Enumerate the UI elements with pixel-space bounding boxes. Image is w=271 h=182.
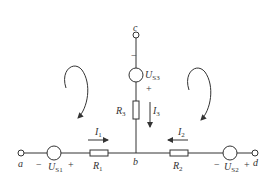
- current-i2-label: I2: [177, 126, 185, 139]
- source-us2-symbol: [223, 146, 237, 160]
- us2-minus: −: [214, 159, 220, 170]
- resistor-r3-symbol: [133, 101, 139, 119]
- terminal-a: [18, 150, 24, 156]
- resistor-r1-symbol: [90, 150, 108, 156]
- circuit-diagram: c a b d − + US3 R3 I3 I1 I2 − US1 + R1 R…: [0, 0, 271, 182]
- source-us1-label: US1: [48, 161, 63, 174]
- loop-arrow-right-icon: [188, 68, 211, 120]
- source-us2-label: US2: [224, 161, 239, 174]
- us3-plus: +: [146, 83, 152, 94]
- us3-minus: −: [131, 50, 137, 61]
- terminal-d: [252, 150, 258, 156]
- loop-arrow-left-icon: [65, 66, 88, 118]
- node-label-c: c: [133, 22, 138, 33]
- circuit-svg: c a b d − + US3 R3 I3 I1 I2 − US1 + R1 R…: [0, 0, 271, 182]
- source-us3-label: US3: [145, 69, 160, 82]
- resistor-r2-label: R2: [172, 160, 183, 173]
- current-i3-label: I3: [152, 105, 160, 118]
- node-label-b: b: [133, 156, 138, 167]
- us1-minus: −: [36, 159, 42, 170]
- node-label-d: d: [253, 157, 259, 168]
- us2-plus: +: [244, 159, 250, 170]
- source-us3-symbol: [129, 68, 143, 82]
- current-i1-label: I1: [94, 126, 102, 139]
- resistor-r1-label: R1: [92, 160, 103, 173]
- us1-plus: +: [68, 159, 74, 170]
- source-us1-symbol: [47, 146, 61, 160]
- resistor-r2-symbol: [170, 150, 188, 156]
- node-label-a: a: [18, 158, 23, 169]
- resistor-r3-label: R3: [115, 105, 126, 118]
